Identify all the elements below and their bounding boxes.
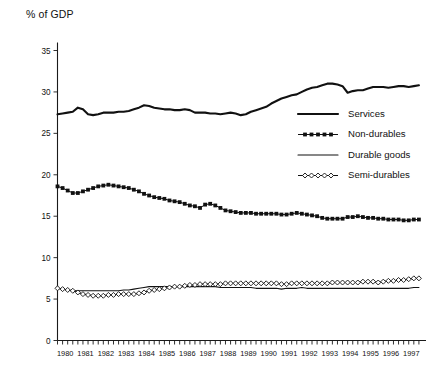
- filled-square-swatch: [298, 133, 338, 137]
- legend-item-durable-goods[interactable]: Durable goods: [298, 149, 411, 160]
- legend-label: Semi-durables: [348, 169, 410, 180]
- x-tick-label: 1996: [383, 349, 399, 358]
- x-tick-label: 1993: [322, 349, 338, 358]
- y-tick-label: 10: [41, 254, 51, 263]
- y-tick-label: 35: [41, 47, 51, 56]
- chart-figure: % of GDP 05101520253035 1980198119821983…: [0, 0, 436, 380]
- legend-label: Durable goods: [348, 149, 411, 160]
- x-tick-label: 1992: [301, 349, 317, 358]
- x-tick-label: 1994: [342, 349, 358, 358]
- y-tick-label: 15: [41, 212, 51, 221]
- x-tick-label: 1988: [220, 349, 236, 358]
- legend-item-non-durables[interactable]: Non-durables: [298, 128, 406, 139]
- y-tick-label: 20: [41, 171, 51, 180]
- x-tick-label: 1981: [77, 349, 93, 358]
- x-tick-label: 1987: [199, 349, 215, 358]
- open-diamond-swatch: [298, 173, 338, 178]
- y-tick-label: 25: [41, 129, 51, 138]
- x-tick-label: 1991: [281, 349, 297, 358]
- x-tick-label: 1980: [57, 349, 73, 358]
- y-tick-label: 5: [46, 295, 51, 304]
- legend-item-services[interactable]: Services: [298, 108, 385, 119]
- series-durable-goods: [58, 287, 419, 291]
- y-tick-label: 30: [41, 88, 51, 97]
- x-tick-label: 1995: [362, 349, 378, 358]
- x-tick-label: 1982: [98, 349, 114, 358]
- y-tick-label: 0: [46, 337, 51, 346]
- series-non-durables: [56, 183, 421, 222]
- y-axis: 05101520253035: [41, 43, 57, 346]
- x-tick-label: 1986: [179, 349, 195, 358]
- x-axis: 1980198119821983198419851986198719881989…: [57, 341, 426, 358]
- x-tick-label: 1989: [240, 349, 256, 358]
- x-tick-label: 1984: [138, 349, 154, 358]
- x-tick-label: 1997: [403, 349, 419, 358]
- x-tick-label: 1990: [261, 349, 277, 358]
- chart-legend: ServicesNon-durablesDurable goodsSemi-du…: [298, 108, 411, 181]
- legend-item-semi-durables[interactable]: Semi-durables: [298, 169, 410, 180]
- legend-label: Non-durables: [348, 128, 406, 139]
- x-tick-label: 1985: [159, 349, 175, 358]
- x-tick-label: 1983: [118, 349, 134, 358]
- chart-plot-area: 05101520253035 1980198119821983198419851…: [0, 0, 436, 380]
- legend-label: Services: [348, 108, 385, 119]
